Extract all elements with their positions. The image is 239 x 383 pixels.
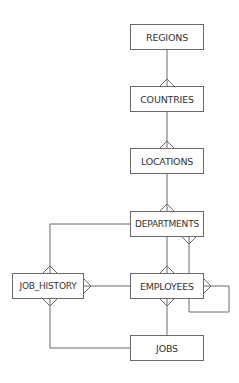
- entity-job-history: JOB_HISTORY: [12, 273, 84, 299]
- entity-departments: DEPARTMENTS: [130, 211, 204, 237]
- line-departments-jobhistory: [50, 224, 130, 273]
- relationship-lines: [0, 0, 239, 383]
- line-jobs-jobhistory: [50, 299, 130, 348]
- entity-countries: COUNTRIES: [130, 86, 204, 112]
- entity-employees: EMPLOYEES: [130, 273, 204, 299]
- entity-regions: REGIONS: [130, 24, 204, 50]
- entity-locations: LOCATIONS: [130, 148, 204, 174]
- entity-jobs: JOBS: [130, 335, 204, 361]
